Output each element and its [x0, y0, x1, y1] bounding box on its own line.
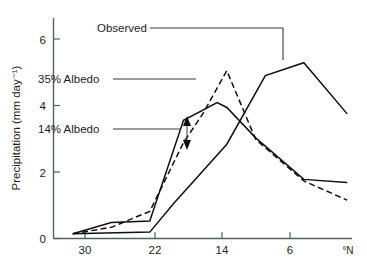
x-tick-label-30: 30: [79, 244, 92, 256]
precipitation-latitude-chart: 0 2 4 6 30 22 14 6 °N Precipitation (mm …: [0, 0, 367, 264]
y-tick-label-6: 6: [40, 34, 46, 46]
annotation-leaders: [113, 28, 283, 129]
x-tick-label-6: 6: [287, 244, 293, 256]
range-arrow-head-down: [183, 140, 191, 150]
x-tick-label-22: 22: [149, 244, 162, 256]
y-tick-label-2: 2: [40, 167, 46, 179]
series-line-observed: [73, 63, 347, 234]
y-axis-ticks: 0 2 4 6: [40, 34, 60, 246]
annotation-label-35-percent-albedo: 35% Albedo: [38, 73, 99, 85]
y-tick-label-4: 4: [40, 100, 47, 112]
x-axis-unit-label: °N: [342, 245, 353, 256]
y-axis-title: Precipitation (mm day⁻¹): [10, 65, 22, 190]
x-tick-label-14: 14: [216, 244, 229, 256]
range-arrow: [183, 116, 191, 150]
chart-series-group: [73, 63, 347, 234]
chart-canvas: 0 2 4 6 30 22 14 6 °N Precipitation (mm …: [0, 0, 367, 264]
y-tick-label-0: 0: [40, 233, 46, 245]
annotation-label-observed: Observed: [97, 22, 147, 34]
x-axis-ticks: 30 22 14 6 °N: [79, 232, 354, 256]
series-line-35-percent-albedo: [73, 103, 347, 234]
annotation-label-14-percent-albedo: 14% Albedo: [38, 123, 99, 135]
leader-line-observed: [150, 28, 283, 60]
series-line-14-percent-albedo: [73, 71, 347, 234]
